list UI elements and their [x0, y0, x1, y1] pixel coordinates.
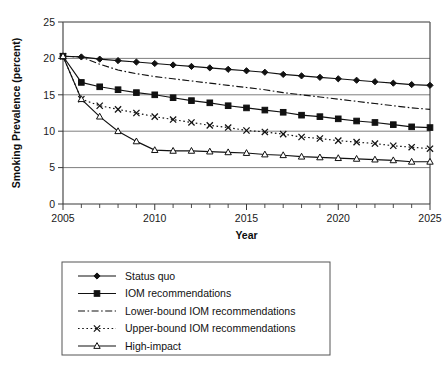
data-point: [97, 84, 103, 90]
data-point: [299, 112, 305, 118]
legend-marker: [94, 291, 100, 297]
legend-label: High-impact: [125, 340, 181, 352]
data-point: [409, 124, 415, 130]
data-point: [133, 138, 139, 144]
data-point: [298, 73, 304, 79]
data-point: [409, 82, 415, 88]
data-point: [372, 140, 378, 146]
data-point: [115, 87, 121, 93]
data-point: [115, 106, 121, 112]
legend-label: Status quo: [125, 270, 175, 282]
chart-legend: Status quoIOM recommendationsLower-bound…: [62, 262, 330, 355]
gridlines: [63, 22, 430, 168]
data-point: [390, 80, 396, 86]
chart-container: 0510152025 20052010201520202025 Status q…: [0, 0, 442, 368]
data-series: [60, 53, 433, 164]
data-point: [152, 114, 158, 120]
axis-lines: [63, 22, 430, 204]
data-point: [225, 103, 231, 109]
data-point: [317, 114, 323, 120]
data-point: [97, 56, 103, 62]
data-point: [170, 95, 176, 101]
y-tick-label: 15: [43, 89, 55, 101]
data-point: [335, 116, 341, 122]
legend-label: IOM recommendations: [125, 287, 231, 299]
x-tick-labels: 20052010201520202025: [51, 212, 442, 224]
data-point: [152, 60, 158, 66]
data-point: [427, 125, 433, 131]
data-point: [244, 105, 250, 111]
data-point: [298, 134, 304, 140]
data-point: [188, 119, 194, 125]
y-tick-label: 10: [43, 125, 55, 137]
data-point: [207, 65, 213, 71]
y-tick-label: 25: [43, 16, 55, 28]
data-point: [79, 80, 85, 86]
data-point: [188, 63, 194, 69]
data-point: [354, 77, 360, 83]
y-tick-labels: 0510152025: [43, 16, 55, 210]
data-point: [207, 100, 213, 106]
data-point: [390, 143, 396, 149]
data-point: [372, 120, 378, 126]
x-tick-label: 2010: [143, 212, 167, 224]
x-tick-label: 2015: [235, 212, 259, 224]
y-tick-label: 20: [43, 52, 55, 64]
data-point: [280, 71, 286, 77]
data-point: [317, 74, 323, 80]
axis-ticks: [58, 22, 430, 210]
x-tick-label: 2005: [51, 212, 75, 224]
x-tick-label: 2025: [418, 212, 442, 224]
data-point: [243, 127, 249, 133]
data-point: [133, 59, 139, 65]
data-point: [354, 118, 360, 124]
data-point: [189, 98, 195, 104]
y-axis-title: Smoking Prevalence (percent): [10, 38, 22, 189]
data-point: [243, 68, 249, 74]
data-point: [427, 82, 433, 88]
legend-label: Upper-bound IOM recommendations: [125, 322, 295, 334]
data-point: [207, 122, 213, 128]
data-point: [262, 69, 268, 75]
data-point: [280, 109, 286, 115]
data-point: [335, 138, 341, 144]
legend-label: Lower-bound IOM recommendations: [125, 305, 295, 317]
y-tick-label: 0: [49, 198, 55, 210]
y-tick-label: 5: [49, 161, 55, 173]
data-point: [152, 92, 158, 98]
x-tick-label: 2020: [327, 212, 351, 224]
series-iom-recommendations: [60, 53, 433, 130]
data-point: [115, 128, 121, 134]
data-point: [225, 66, 231, 72]
data-point: [391, 122, 397, 128]
data-point: [262, 107, 268, 113]
data-point: [280, 131, 286, 137]
data-point: [134, 90, 140, 96]
smoking-prevalence-line-chart: 0510152025 20052010201520202025 Status q…: [0, 0, 442, 368]
data-point: [335, 76, 341, 82]
x-axis-title: Year: [235, 229, 257, 241]
data-point: [372, 79, 378, 85]
data-point: [170, 62, 176, 68]
